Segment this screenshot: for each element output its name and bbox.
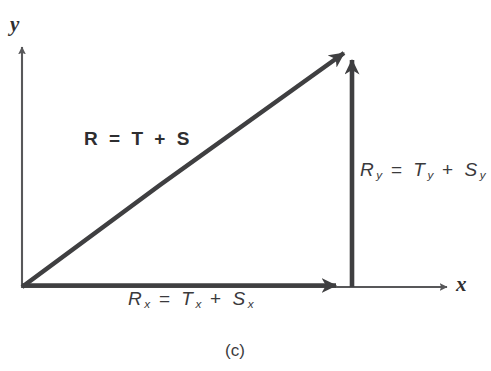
rx-plus: + <box>209 288 225 309</box>
rx-equals: = <box>158 288 174 309</box>
resultant-term-s: S <box>177 128 193 149</box>
rx-term-t: T <box>181 288 195 309</box>
resultant-vector-arrow <box>22 53 344 287</box>
ry-term-s-subscript: y <box>480 168 486 181</box>
ry-equals: = <box>390 159 406 180</box>
ry-term-t: T <box>413 159 427 180</box>
ry-term-s: S <box>464 159 479 180</box>
resultant-lhs: R <box>84 128 101 149</box>
vector-addition-figure: y x R = T + S Ry = Ty + Sy Rx = Tx + Sx … <box>0 0 491 371</box>
rx-term-s: S <box>232 288 247 309</box>
ry-lhs: R <box>360 159 376 180</box>
ry-plus: + <box>441 159 457 180</box>
rx-term-s-subscript: x <box>248 297 254 310</box>
resultant-term-t: T <box>131 128 146 149</box>
resultant-equals: = <box>109 128 123 149</box>
rx-term-t-subscript: x <box>195 297 201 310</box>
ry-term-t-subscript: y <box>427 168 433 181</box>
ry-lhs-subscript: y <box>376 168 382 181</box>
x-axis-label: x <box>456 274 467 295</box>
y-axis-label: y <box>10 14 19 35</box>
y-component-equation-label: Ry = Ty + Sy <box>360 160 486 181</box>
rx-lhs-subscript: x <box>144 297 150 310</box>
resultant-equation-label: R = T + S <box>84 129 192 148</box>
vector-diagram-canvas <box>0 0 491 371</box>
figure-caption: (c) <box>0 341 470 361</box>
rx-lhs: R <box>128 288 144 309</box>
vector-arrows <box>22 53 352 287</box>
x-component-equation-label: Rx = Tx + Sx <box>128 289 254 310</box>
resultant-plus: + <box>154 128 168 149</box>
